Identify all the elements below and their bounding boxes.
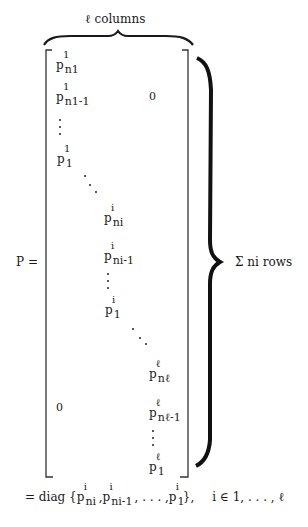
zero-lower: 0 xyxy=(56,401,63,414)
top-brace xyxy=(44,31,193,45)
term-pl-1: pℓ1 xyxy=(149,461,165,473)
vdots-block1 xyxy=(59,119,62,140)
ddot xyxy=(145,343,147,345)
zero-upper: 0 xyxy=(149,90,156,103)
lhs-label: P = xyxy=(16,255,38,269)
term-pl-nl: pℓnℓ xyxy=(149,368,170,380)
ddot xyxy=(89,184,91,186)
term-pi-1: pi1 xyxy=(105,304,121,316)
term-p1-n1: p1n1 xyxy=(56,59,79,71)
ddot xyxy=(84,175,86,177)
right-brace xyxy=(196,58,220,466)
term-p1-1: p11 xyxy=(57,153,73,165)
rows-label: Σ ni rows xyxy=(235,255,292,269)
diag-equation: = diag {pini,pini-1, . . . ,pi1},i ∈ 1, … xyxy=(25,490,284,505)
ddot xyxy=(95,191,97,193)
vdots-blocki xyxy=(107,273,110,294)
right-bracket xyxy=(180,50,188,477)
term-pl-nl-1: pℓnℓ-1 xyxy=(149,407,181,419)
left-bracket xyxy=(46,50,53,477)
ddot xyxy=(139,337,141,339)
vdots-blockl xyxy=(152,430,155,451)
term-pi-ni: pini xyxy=(104,212,123,224)
term-pi-ni-1: pini-1 xyxy=(104,250,134,262)
term-p1-n1-1: p1n1-1 xyxy=(56,91,90,103)
ddot xyxy=(132,328,134,330)
columns-label: ℓ columns xyxy=(85,12,145,27)
